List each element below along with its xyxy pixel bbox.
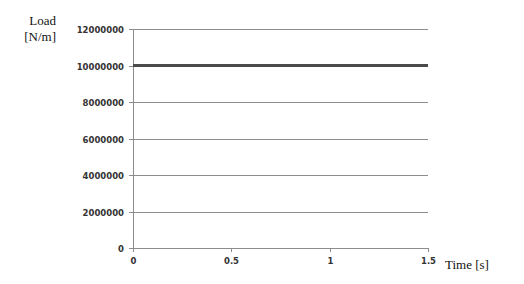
y-tick-label: 2000000: [83, 208, 124, 218]
y-tick-label: 10000000: [77, 62, 124, 72]
y-tick-label: 4000000: [83, 171, 124, 181]
x-tick-label: 1: [328, 256, 334, 266]
y-tick-label: 8000000: [83, 98, 124, 108]
x-tick-label: 0: [131, 256, 137, 266]
y-tick-label: 12000000: [77, 25, 124, 35]
x-tick-label: 0.5: [224, 256, 239, 266]
y-tick-label: 6000000: [83, 135, 124, 145]
y-tick-label: 0: [118, 244, 124, 254]
x-tick-label: 1.5: [421, 256, 436, 266]
line-chart: 0200000040000006000000800000010000000120…: [0, 0, 524, 284]
